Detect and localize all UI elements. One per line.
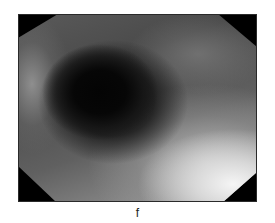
figure-panel: f xyxy=(0,0,275,223)
panel-label: f xyxy=(0,206,275,220)
endoscopic-view xyxy=(18,14,257,202)
endoscopy-image xyxy=(18,14,257,202)
